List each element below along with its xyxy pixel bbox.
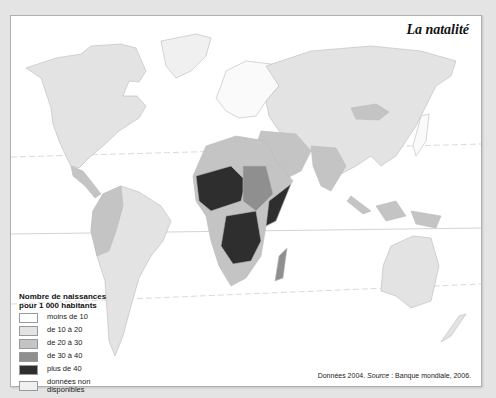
north-america bbox=[26, 44, 146, 168]
central-america bbox=[71, 166, 101, 198]
new-zealand bbox=[441, 314, 466, 342]
legend-swatch-30-40 bbox=[19, 352, 38, 362]
legend-item: données non disponibles bbox=[19, 378, 169, 394]
legend-label: de 10 à 20 bbox=[47, 326, 82, 334]
legend-swatch-no-data bbox=[19, 381, 38, 391]
map-frame: La natalité Nombre de naissances pour 1 … bbox=[10, 15, 482, 387]
legend-label: de 30 à 40 bbox=[47, 352, 82, 360]
legend-item: moins de 10 bbox=[19, 313, 169, 323]
legend-swatch-over-40 bbox=[19, 365, 38, 375]
legend-item: de 30 à 40 bbox=[19, 352, 169, 362]
legend-item: plus de 40 bbox=[19, 365, 169, 375]
legend-label: moins de 10 bbox=[47, 313, 88, 321]
legend-label: de 20 à 30 bbox=[47, 339, 82, 347]
madagascar bbox=[275, 248, 287, 281]
legend-title-line2: pour 1 000 habitants bbox=[19, 301, 169, 310]
legend-title-line1: Nombre de naissances bbox=[19, 292, 169, 301]
map-title: La natalité bbox=[406, 22, 469, 38]
australia bbox=[381, 236, 439, 308]
legend-label: données non disponibles bbox=[47, 378, 107, 394]
legend-swatch-10-20 bbox=[19, 326, 38, 336]
legend-swatch-under-10 bbox=[19, 313, 38, 323]
legend-item: de 10 à 20 bbox=[19, 326, 169, 336]
legend: Nombre de naissances pour 1 000 habitant… bbox=[19, 292, 169, 394]
source-note: Données 2004. Source : Banque mondiale, … bbox=[318, 372, 471, 379]
legend-swatch-20-30 bbox=[19, 339, 38, 349]
legend-label: plus de 40 bbox=[47, 365, 82, 373]
greenland bbox=[161, 34, 211, 78]
legend-item: de 20 à 30 bbox=[19, 339, 169, 349]
